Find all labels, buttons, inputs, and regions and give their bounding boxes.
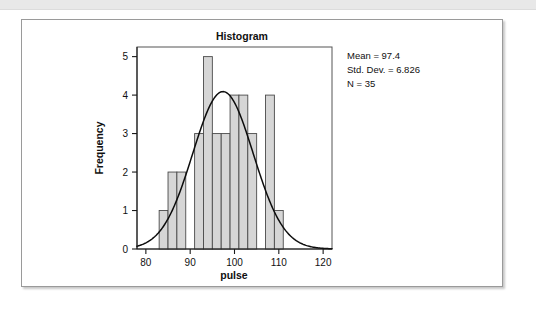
x-axis-tick-label: 110 — [271, 257, 287, 268]
x-axis-ticks: 8090100110120 — [140, 249, 332, 268]
x-axis-tick-label: 90 — [185, 257, 197, 268]
x-axis-tick-label: 100 — [226, 257, 243, 268]
histogram-bar — [212, 134, 221, 249]
chart-title: Histogram — [216, 30, 268, 42]
y-axis-tick-label: 2 — [122, 167, 128, 178]
stat-std-dev: Std. Dev. = 6.826 — [347, 64, 420, 75]
stat-n: N = 35 — [347, 78, 375, 89]
y-axis-ticks: 012345 — [122, 51, 137, 254]
y-axis-tick-label: 1 — [122, 205, 128, 216]
x-axis-title: pulse — [220, 269, 248, 281]
histogram-bar — [230, 95, 239, 249]
histogram-bar — [195, 134, 204, 249]
x-axis-tick-label: 80 — [140, 257, 152, 268]
y-axis-tick-label: 0 — [122, 244, 128, 255]
stat-mean: Mean = 97.4 — [347, 50, 400, 61]
histogram-bars — [159, 57, 283, 249]
y-axis-title: Frequency — [93, 121, 105, 174]
y-axis-tick-label: 5 — [122, 51, 128, 62]
histogram-chart: Histogram 8090100110120 012345 pulse Fre… — [22, 20, 502, 286]
histogram-figure-card: Histogram 8090100110120 012345 pulse Fre… — [21, 19, 503, 287]
chart-area: Histogram 8090100110120 012345 pulse Fre… — [22, 20, 502, 286]
histogram-bar — [221, 134, 230, 249]
histogram-bar — [239, 95, 248, 249]
y-axis-tick-label: 4 — [122, 90, 128, 101]
histogram-bar — [274, 211, 283, 249]
histogram-bar — [266, 95, 275, 249]
x-axis-tick-label: 120 — [315, 257, 332, 268]
top-decorative-strip — [0, 0, 536, 10]
y-axis-tick-label: 3 — [122, 128, 128, 139]
histogram-bar — [177, 172, 186, 249]
histogram-bar — [203, 57, 212, 249]
